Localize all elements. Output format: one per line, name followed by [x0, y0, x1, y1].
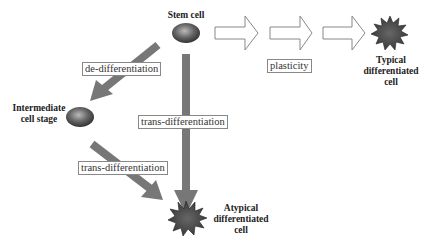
typical-label-line3: cell	[357, 77, 425, 88]
intermediate-cell-icon	[66, 107, 94, 127]
typical-cell-label: Typical differentiated cell	[357, 55, 425, 88]
trans-differentiation-direct-arrow	[174, 54, 198, 215]
trans-differentiation-intermediate-label: trans-differentiation	[78, 161, 168, 175]
atypical-label-line3: cell	[207, 225, 275, 236]
intermediate-cell-label: Intermediate cell stage	[8, 103, 70, 125]
plasticity-arrow-3	[323, 16, 365, 50]
atypical-cell-label: Atypical differentiated cell	[207, 203, 275, 236]
stem-cell-icon	[172, 23, 200, 43]
de-differentiation-label: de-differentiation	[82, 62, 161, 76]
atypical-label-line1: Atypical	[207, 203, 275, 214]
typical-label-line2: differentiated	[357, 66, 425, 77]
typical-cell-star-icon	[371, 16, 408, 50]
atypical-cell-star-icon	[168, 201, 207, 236]
intermediate-label-line1: Intermediate	[8, 103, 70, 114]
plasticity-label: plasticity	[267, 59, 312, 73]
typical-label-line1: Typical	[357, 55, 425, 66]
trans-differentiation-direct-label: trans-differentiation	[138, 115, 228, 129]
intermediate-label-line2: cell stage	[8, 114, 70, 125]
stem-cell-label: Stem cell	[160, 10, 212, 21]
plasticity-arrow-2	[270, 16, 312, 50]
plasticity-arrow-1	[215, 16, 258, 50]
atypical-label-line2: differentiated	[207, 214, 275, 225]
